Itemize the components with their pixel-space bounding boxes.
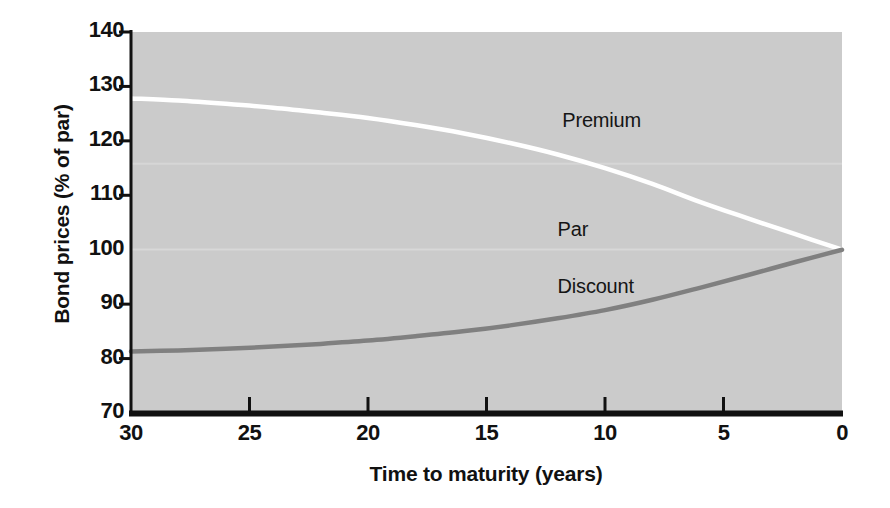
x-axis-tick-labels: 302520151050	[0, 420, 890, 454]
discount-label: Discount	[558, 275, 634, 298]
premium-label: Premium	[562, 109, 641, 132]
x-tick-label-0: 0	[812, 420, 872, 446]
y-axis-tick-marks	[119, 32, 131, 413]
bond-price-convergence-chart: Bond prices (% of par) 70809010011012013…	[0, 0, 890, 508]
x-tick-label-20: 20	[338, 420, 398, 446]
x-tick-label-5: 5	[694, 420, 754, 446]
x-tick-label-10: 10	[575, 420, 635, 446]
x-tick-label-30: 30	[101, 420, 161, 446]
x-tick-label-25: 25	[220, 420, 280, 446]
plot-background	[131, 32, 842, 413]
x-axis-title: Time to maturity (years)	[130, 462, 842, 486]
x-tick-label-15: 15	[457, 420, 517, 446]
par-label: Par	[558, 218, 589, 241]
